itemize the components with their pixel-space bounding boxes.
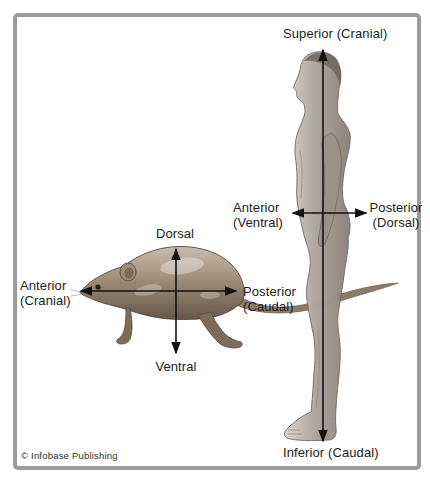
anterior-cranial-label: Anterior (Cranial) [20, 279, 71, 308]
rat-front-leg [117, 308, 133, 344]
posterior-caudal-line1: Posterior [243, 285, 296, 300]
rat-whiskers [70, 289, 83, 296]
posterior-dorsal-line2: (Dorsal) [367, 216, 425, 231]
posterior-caudal-line2: (Caudal) [243, 300, 296, 315]
copyright-credit: © Infobase Publishing [21, 450, 118, 461]
anterior-cranial-line2: (Cranial) [20, 294, 71, 309]
anterior-ventral-label: Anterior (Ventral) [233, 201, 283, 230]
rat-body [80, 246, 244, 319]
human-body [284, 52, 350, 441]
anterior-ventral-line2: (Ventral) [233, 216, 283, 231]
ventral-label: Ventral [150, 360, 202, 375]
posterior-dorsal-line1: Posterior [367, 201, 425, 216]
posterior-caudal-label: Posterior (Caudal) [243, 285, 296, 314]
rat-eye [95, 284, 100, 289]
diagram-canvas: Superior (Cranial) Anterior (Ventral) Po… [0, 0, 430, 483]
rat-illustration [70, 246, 398, 348]
rat-hind-leg [198, 312, 242, 348]
inferior-caudal-label: Inferior (Caudal) [283, 446, 379, 461]
superior-cranial-label: Superior (Cranial) [283, 27, 387, 42]
anterior-cranial-line1: Anterior [20, 279, 71, 294]
diagram-artwork [0, 0, 430, 483]
human-figure-illustration [284, 52, 350, 441]
posterior-dorsal-label: Posterior (Dorsal) [367, 201, 425, 230]
dorsal-label: Dorsal [150, 227, 200, 242]
anterior-ventral-line1: Anterior [233, 201, 283, 216]
